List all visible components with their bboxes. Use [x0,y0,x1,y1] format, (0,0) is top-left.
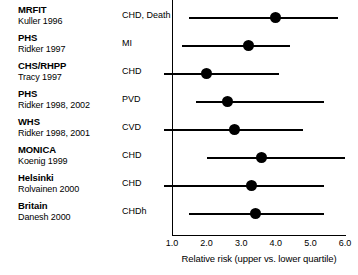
study-label-column: MRFITKuller 1996CHD, DeathPHSRidker 1997… [0,0,172,236]
study-reference: Ridker 1998, 2001 [18,128,122,140]
relative-risk-point [246,180,257,191]
relative-risk-point [222,96,233,107]
study-identity: PHSRidker 1997 [18,32,122,55]
study-outcome: CHD [122,178,142,190]
study-label-row: WHSRidker 1998, 2001CVD [0,116,172,144]
confidence-interval-line [196,101,324,103]
study-name: Britain [18,200,122,212]
study-identity: BritainDanesh 2000 [18,200,122,223]
study-outcome: CHD, Death [122,10,171,22]
study-name: MONICA [18,144,122,156]
confidence-interval-line [182,45,289,47]
study-reference: Koenig 1999 [18,156,122,168]
study-name: Helsinki [18,172,122,184]
relative-risk-point [250,208,261,219]
study-identity: CHS/RHPPTracy 1997 [18,60,122,83]
study-identity: HelsinkiRolvainen 2000 [18,172,122,195]
x-tick-label: 1.0 [166,238,179,249]
relative-risk-point [229,124,240,135]
confidence-interval-line [164,185,324,187]
study-reference: Ridker 1997 [18,44,122,56]
study-label-row: HelsinkiRolvainen 2000CHD [0,172,172,200]
study-outcome: MI [122,38,132,50]
confidence-interval-row [172,88,358,116]
relative-risk-point [270,12,281,23]
x-tick-label: 4.0 [270,238,283,249]
x-axis-line [172,235,346,236]
study-reference: Kuller 1996 [18,16,122,28]
study-outcome: CHD [122,66,142,78]
study-reference: Rolvainen 2000 [18,184,122,196]
plot-panel [172,0,358,236]
study-name: CHS/RHPP [18,60,122,72]
relative-risk-point [201,68,212,79]
confidence-interval-row [172,144,358,172]
study-label-row: PHSRidker 1997MI [0,32,172,60]
confidence-interval-row [172,172,358,200]
x-tick-label: 5.0 [304,238,317,249]
x-tick-label: 3.0 [235,238,248,249]
study-label-row: PHSRidker 1998, 2002PVD [0,88,172,116]
confidence-interval-row [172,116,358,144]
study-label-row: CHS/RHPPTracy 1997CHD [0,60,172,88]
confidence-interval-row [172,60,358,88]
x-axis-title: Relative risk (upper vs. lower quartile) [172,253,346,264]
study-name: MRFIT [18,4,122,16]
study-outcome: CVD [122,122,141,134]
relative-risk-point [256,152,267,163]
study-label-row: BritainDanesh 2000CHDh [0,200,172,228]
confidence-interval-row [172,32,358,60]
confidence-interval-line [164,73,279,75]
confidence-interval-row [172,4,358,32]
x-tick-label: 2.0 [200,238,213,249]
study-outcome: PVD [122,94,141,106]
study-identity: MRFITKuller 1996 [18,4,122,27]
confidence-interval-line [207,157,345,159]
study-identity: MONICAKoenig 1999 [18,144,122,167]
confidence-interval-row [172,200,358,228]
study-identity: PHSRidker 1998, 2002 [18,88,122,111]
study-name: PHS [18,88,122,100]
study-reference: Ridker 1998, 2002 [18,100,122,112]
x-axis-tick-labels: 1.02.03.04.05.06.0 [172,238,358,252]
relative-risk-point [243,40,254,51]
confidence-interval-line [189,17,338,19]
study-name: PHS [18,32,122,44]
study-outcome: CHDh [122,206,147,218]
study-reference: Danesh 2000 [18,212,122,224]
study-label-row: MONICAKoenig 1999CHD [0,144,172,172]
study-outcome: CHD [122,150,142,162]
study-reference: Tracy 1997 [18,72,122,84]
study-label-row: MRFITKuller 1996CHD, Death [0,4,172,32]
study-identity: WHSRidker 1998, 2001 [18,116,122,139]
forest-plot-figure: MRFITKuller 1996CHD, DeathPHSRidker 1997… [0,0,358,275]
study-name: WHS [18,116,122,128]
x-tick-label: 6.0 [339,238,352,249]
